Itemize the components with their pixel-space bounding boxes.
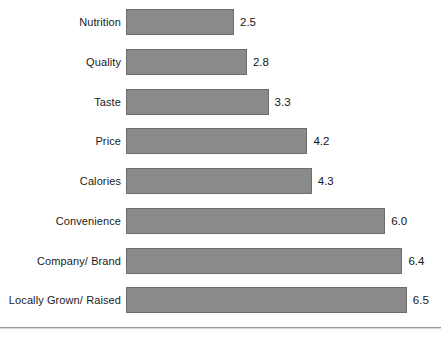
bar-chart: Nutrition2.5Quality2.8Taste3.3Price4.2Ca… bbox=[0, 0, 441, 337]
bar-value-label: 6.5 bbox=[413, 287, 429, 313]
bar-row: Calories4.3 bbox=[0, 168, 441, 194]
bar-row: Convenience6.0 bbox=[0, 208, 441, 234]
bar-value-label: 2.8 bbox=[253, 49, 269, 75]
bar-row: Taste3.3 bbox=[0, 89, 441, 115]
bar bbox=[126, 168, 312, 194]
bar-row: Quality2.8 bbox=[0, 49, 441, 75]
category-label: Taste bbox=[0, 89, 121, 115]
category-label: Calories bbox=[0, 168, 121, 194]
category-label: Quality bbox=[0, 49, 121, 75]
bar bbox=[126, 287, 407, 313]
bar-value-label: 4.3 bbox=[318, 168, 334, 194]
bar-value-label: 6.4 bbox=[408, 248, 424, 274]
category-label: Company/ Brand bbox=[0, 248, 121, 274]
bar bbox=[126, 128, 307, 154]
category-label: Nutrition bbox=[0, 9, 121, 35]
bar bbox=[126, 49, 247, 75]
bar-row: Company/ Brand6.4 bbox=[0, 248, 441, 274]
category-label: Convenience bbox=[0, 208, 121, 234]
category-label: Locally Grown/ Raised bbox=[0, 287, 121, 313]
bar-value-label: 6.0 bbox=[391, 208, 407, 234]
bar-row: Price4.2 bbox=[0, 128, 441, 154]
bar-value-label: 3.3 bbox=[275, 89, 291, 115]
category-label: Price bbox=[0, 128, 121, 154]
bar-value-label: 4.2 bbox=[313, 128, 329, 154]
bar bbox=[126, 9, 234, 35]
bar-row: Locally Grown/ Raised6.5 bbox=[0, 287, 441, 313]
bar-value-label: 2.5 bbox=[240, 9, 256, 35]
bar-row: Nutrition2.5 bbox=[0, 9, 441, 35]
bar bbox=[126, 208, 385, 234]
bar bbox=[126, 89, 269, 115]
axis-baseline-rule-shadow bbox=[0, 328, 441, 329]
bar bbox=[126, 248, 402, 274]
